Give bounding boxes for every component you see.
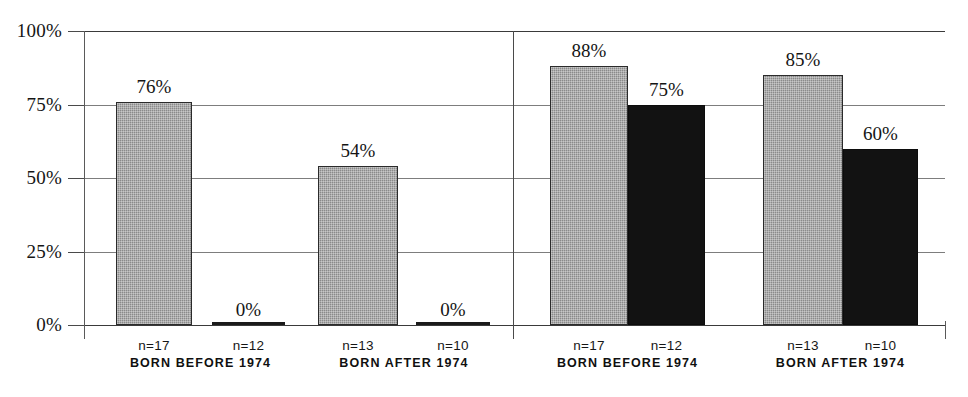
bar-value-right-panel-g0-gray: 88% (572, 40, 607, 62)
ytick-mark-100 (68, 31, 84, 32)
bar-right-panel-g1-gray (763, 75, 843, 325)
ytick-mark-25 (68, 252, 84, 253)
bar-left-panel-g0-gray (116, 102, 192, 325)
bar-chart: 100%75%50%25%0%76%n=170%n=12BORN BEFORE … (0, 0, 968, 397)
ytick-label-0: 0% (0, 314, 62, 336)
ytick-label-75: 75% (0, 94, 62, 116)
bar-right-panel-g1-black (843, 149, 918, 325)
n-label-left-panel-g0-black: n=12 (233, 338, 265, 353)
group-label-right-panel-g1: BORN AFTER 1974 (776, 356, 905, 370)
bar-value-right-panel-g0-black: 75% (649, 79, 684, 101)
bar-right-panel-g0-black (628, 105, 705, 326)
bar-left-panel-g1-black (416, 322, 490, 325)
ytick-label-100: 100% (0, 20, 62, 42)
bar-value-left-panel-g1-black: 0% (440, 299, 465, 321)
n-label-right-panel-g0-black: n=12 (651, 338, 683, 353)
gridline-100 (84, 31, 945, 32)
bar-value-left-panel-g0-black: 0% (236, 299, 261, 321)
gridline-0 (84, 325, 945, 326)
group-label-left-panel-g0: BORN BEFORE 1974 (130, 356, 271, 370)
n-label-left-panel-g1-gray: n=13 (342, 338, 374, 353)
ytick-label-50: 50% (0, 167, 62, 189)
bar-left-panel-g1-gray (318, 166, 398, 325)
group-label-right-panel-g0: BORN BEFORE 1974 (557, 356, 698, 370)
bar-right-panel-g0-gray (550, 66, 628, 325)
ytick-mark-75 (68, 105, 84, 106)
y-axis-line (84, 31, 85, 339)
bar-value-left-panel-g0-gray: 76% (137, 76, 172, 98)
panel-divider (513, 31, 514, 339)
right-edge-tick (945, 321, 946, 339)
n-label-right-panel-g1-black: n=10 (865, 338, 897, 353)
bar-left-panel-g0-black (212, 322, 285, 325)
ytick-mark-50 (68, 178, 84, 179)
group-label-left-panel-g1: BORN AFTER 1974 (339, 356, 468, 370)
bar-value-right-panel-g1-black: 60% (863, 123, 898, 145)
n-label-right-panel-g0-gray: n=17 (573, 338, 605, 353)
n-label-left-panel-g1-black: n=10 (437, 338, 469, 353)
bar-value-left-panel-g1-gray: 54% (341, 140, 376, 162)
n-label-right-panel-g1-gray: n=13 (787, 338, 819, 353)
bar-value-right-panel-g1-gray: 85% (786, 49, 821, 71)
ytick-label-25: 25% (0, 241, 62, 263)
ytick-mark-0 (68, 325, 84, 326)
n-label-left-panel-g0-gray: n=17 (138, 338, 170, 353)
